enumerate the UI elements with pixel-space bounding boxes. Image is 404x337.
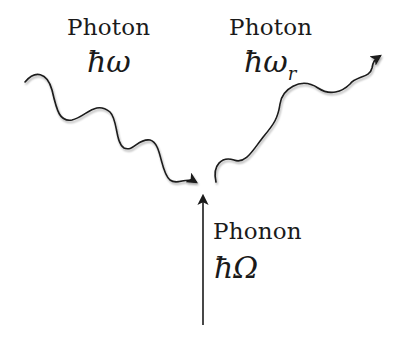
scattered-photon-label: Photon — [229, 14, 312, 40]
incident-photon-label: Photon — [67, 14, 150, 40]
incident-photon-energy: ħω — [87, 44, 131, 79]
scattered-photon-wave — [215, 56, 380, 182]
phonon-energy: ħΩ — [214, 250, 258, 285]
diagram-lines — [0, 0, 404, 337]
scattered-photon-energy-main: ħω — [244, 44, 288, 79]
phonon-label: Phonon — [213, 218, 302, 244]
raman-diagram: Photon ħω Photon ħωr Phonon ħΩ — [0, 0, 404, 337]
incident-photon-wave — [25, 74, 196, 182]
scattered-photon-energy: ħωr — [244, 44, 296, 84]
scattered-photon-energy-subscript: r — [288, 63, 297, 84]
